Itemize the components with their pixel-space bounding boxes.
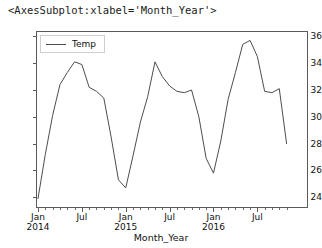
x-axis-minor-tick (155, 208, 156, 210)
x-axis-minor-tick (75, 208, 76, 210)
x-axis-minor-tick (111, 208, 112, 210)
x-axis-tick-label: Jul (164, 212, 175, 222)
x-axis-minor-tick (140, 208, 141, 210)
matplotlib-figure: <AxesSubplot:xlabel='Month_Year'> 242628… (0, 0, 322, 248)
x-axis-minor-tick (177, 208, 178, 210)
series-line-temp (38, 40, 287, 198)
x-axis-minor-tick (53, 208, 54, 210)
x-axis-minor-tick (199, 208, 200, 210)
x-axis-minor-tick (104, 208, 105, 210)
x-axis-minor-tick (221, 208, 222, 210)
x-axis-minor-tick (265, 208, 266, 210)
x-axis-minor-tick (184, 208, 185, 210)
axes-repr-text: <AxesSubplot:xlabel='Month_Year'> (8, 4, 217, 16)
x-axis-minor-tick (243, 208, 244, 210)
legend: Temp (40, 35, 105, 53)
x-axis-minor-tick (192, 208, 193, 210)
legend-swatch-temp (46, 44, 66, 45)
x-axis-tick-label: Jan 2016 (202, 212, 225, 232)
x-axis-minor-tick (45, 208, 46, 210)
x-axis-minor-tick (287, 208, 288, 210)
plot-area (36, 31, 308, 208)
x-axis-minor-tick (272, 208, 273, 210)
x-axis-minor-tick (148, 208, 149, 210)
x-axis-minor-tick (89, 208, 90, 210)
x-axis-tick-label: Jan 2015 (114, 212, 137, 232)
x-axis-minor-tick (228, 208, 229, 210)
x-axis-tick-label: Jul (252, 212, 263, 222)
x-axis-minor-tick (206, 208, 207, 210)
x-axis-minor-tick (162, 208, 163, 210)
x-axis-tick-label: Jan 2014 (27, 212, 50, 232)
x-axis-minor-tick (250, 208, 251, 210)
x-axis-minor-tick (235, 208, 236, 210)
x-axis-minor-tick (96, 208, 97, 210)
x-axis-tick-label: Jul (76, 212, 87, 222)
x-axis-minor-tick (279, 208, 280, 210)
x-axis-minor-tick (60, 208, 61, 210)
x-axis-label: Month_Year (0, 232, 322, 243)
data-line-chart (36, 31, 308, 208)
x-axis-minor-tick (133, 208, 134, 210)
legend-label-temp: Temp (72, 39, 96, 49)
x-axis-minor-tick (118, 208, 119, 210)
x-axis-minor-tick (67, 208, 68, 210)
